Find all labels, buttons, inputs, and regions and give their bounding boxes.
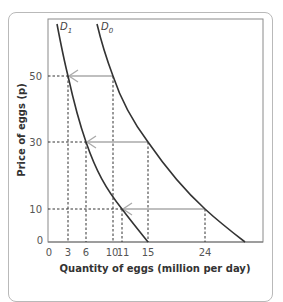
dashed-guides xyxy=(48,76,205,242)
x-tick-24: 24 xyxy=(199,247,212,258)
y-tick-10: 10 xyxy=(29,204,42,215)
x-tick-6: 6 xyxy=(83,247,89,258)
x-tick-3: 3 xyxy=(65,247,71,258)
y-tick-0: 0 xyxy=(37,235,43,246)
label-d0: D0 xyxy=(101,21,114,35)
label-d1: D1 xyxy=(60,21,72,35)
x-tick-15: 15 xyxy=(142,247,155,258)
x-tick-0: 0 xyxy=(46,247,52,258)
x-tick-11: 11 xyxy=(117,247,130,258)
y-axis-title: Price of eggs (p) xyxy=(16,83,27,176)
y-tick-30: 30 xyxy=(29,137,42,148)
x-axis-title: Quantity of eggs (million per day) xyxy=(60,263,251,274)
y-tick-50: 50 xyxy=(29,71,42,82)
shift-arrows xyxy=(69,70,205,215)
